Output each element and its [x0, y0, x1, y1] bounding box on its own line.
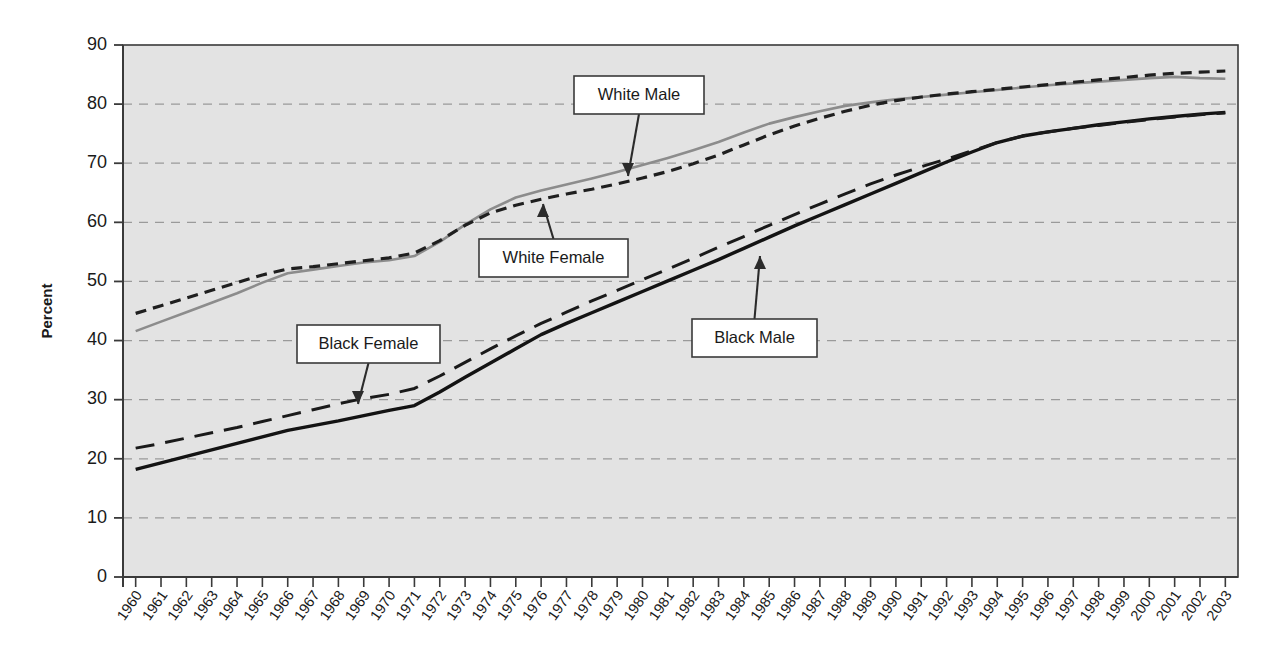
x-axis-tick-label: 1964: [215, 588, 247, 624]
x-axis-tick-label: 2000: [1127, 588, 1159, 624]
x-axis-tick-label: 1983: [696, 588, 728, 624]
x-axis-tick-label: 1976: [519, 588, 551, 624]
y-axis-tick-label: 40: [87, 329, 107, 349]
plot-background-group: [123, 45, 1238, 577]
x-axis-tick-label: 1988: [823, 588, 855, 624]
y-axis-tick-label: 60: [87, 211, 107, 231]
x-axis-tick-label: 1968: [316, 588, 348, 624]
x-axis-tick-label: 1971: [392, 588, 424, 624]
x-axis-tick-label: 1998: [1076, 588, 1108, 624]
x-axis-tick-label: 1966: [266, 588, 298, 624]
x-axis-tick-label: 1995: [1000, 588, 1032, 624]
x-axis-tick-label: 1989: [848, 588, 880, 624]
y-axis-tick-label: 90: [87, 34, 107, 54]
x-axis: 1960196119621963196419651966196719681969…: [114, 577, 1238, 623]
y-axis: 9080706050403020100: [87, 34, 123, 587]
y-axis-title-group: Percent: [38, 283, 55, 338]
x-axis-tick-label: 2002: [1178, 588, 1210, 624]
x-axis-tick-label: 1999: [1102, 588, 1134, 624]
x-axis-tick-label: 1961: [139, 588, 171, 624]
x-axis-tick-label: 1978: [570, 588, 602, 624]
x-axis-tick-label: 1977: [544, 588, 576, 624]
y-axis-title: Percent: [38, 283, 55, 338]
x-axis-tick-label: 1990: [874, 588, 906, 624]
x-axis-tick-label: 1980: [620, 588, 652, 624]
x-axis-tick-label: 1991: [899, 588, 931, 624]
x-axis-tick-label: 1965: [240, 588, 272, 624]
x-axis-tick-label: 1969: [342, 588, 374, 624]
x-axis-tick-label: 1975: [494, 588, 526, 624]
y-axis-tick-label: 10: [87, 507, 107, 527]
line-chart: 9080706050403020100 19601961196219631964…: [0, 0, 1282, 670]
x-axis-tick-label: 1962: [164, 588, 196, 624]
x-axis-tick-label: 1994: [975, 588, 1007, 624]
callout-label: Black Female: [319, 334, 419, 352]
x-axis-tick-label: 1960: [114, 588, 146, 624]
x-axis-tick-label: 1967: [291, 588, 323, 624]
callout-label: White Male: [598, 85, 681, 103]
x-axis-tick-label: 2003: [1203, 588, 1235, 624]
y-axis-tick-label: 70: [87, 152, 107, 172]
x-axis-tick-label: 1974: [468, 588, 500, 624]
y-axis-tick-label: 80: [87, 93, 107, 113]
x-axis-tick-label: 1987: [798, 588, 830, 624]
x-axis-tick-label: 1973: [443, 588, 475, 624]
x-axis-tick-label: 2001: [1152, 588, 1184, 624]
x-axis-tick-label: 1979: [595, 588, 627, 624]
x-axis-tick-label: 1996: [1026, 588, 1058, 624]
x-axis-tick-label: 1970: [367, 588, 399, 624]
chart-container: 9080706050403020100 19601961196219631964…: [0, 0, 1282, 670]
x-axis-tick-label: 1997: [1051, 588, 1083, 624]
x-axis-tick-label: 1986: [772, 588, 804, 624]
x-axis-tick-label: 1981: [646, 588, 678, 624]
x-axis-tick-label: 1972: [418, 588, 450, 624]
callout-label: Black Male: [714, 328, 795, 346]
x-axis-tick-label: 1985: [747, 588, 779, 624]
x-axis-tick-label: 1993: [950, 588, 982, 624]
x-axis-tick-label: 1982: [671, 588, 703, 624]
y-axis-tick-label: 20: [87, 448, 107, 468]
plot-background: [123, 45, 1238, 577]
y-axis-tick-label: 30: [87, 388, 107, 408]
x-axis-tick-label: 1984: [722, 588, 754, 624]
x-axis-tick-label: 1992: [924, 588, 956, 624]
callout-label: White Female: [503, 248, 605, 266]
y-axis-tick-label: 0: [97, 566, 107, 586]
y-axis-tick-label: 50: [87, 270, 107, 290]
x-axis-tick-label: 1963: [190, 588, 222, 624]
